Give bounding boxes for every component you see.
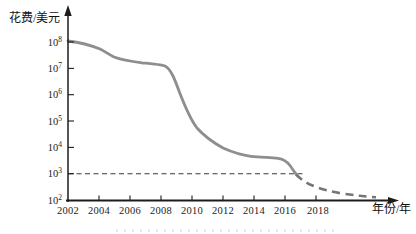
y-axis-title: 花费/美元 [9, 12, 60, 25]
chart-plot-area [0, 0, 416, 234]
x-tick-label-2016: 2016 [269, 204, 301, 217]
x-tick-label-2012: 2012 [207, 204, 239, 217]
projected-cost-curve [296, 175, 376, 198]
y-axis-arrowhead [64, 5, 71, 16]
x-axis-ticks [99, 196, 316, 201]
y-tick-label-10e7: 107 [26, 62, 62, 75]
chart-canvas: 花费/美元 年份/年 108 107 106 105 104 103 102 2… [0, 0, 416, 234]
x-tick-label-2002: 2002 [52, 204, 84, 217]
caption-remnant [116, 229, 334, 232]
x-axis-title: 年份/年 [372, 203, 411, 216]
y-tick-label-10e8: 108 [26, 36, 62, 49]
x-tick-label-2008: 2008 [145, 204, 177, 217]
x-tick-label-2018: 2018 [302, 204, 334, 217]
y-tick-label-10e3: 103 [26, 167, 62, 180]
actual-cost-curve [68, 41, 296, 174]
y-axis-ticks [68, 42, 74, 174]
x-tick-label-2004: 2004 [83, 204, 115, 217]
x-tick-label-2006: 2006 [114, 204, 146, 217]
x-tick-label-2014: 2014 [238, 204, 270, 217]
y-tick-label-10e4: 104 [26, 141, 62, 154]
y-tick-label-10e5: 105 [26, 115, 62, 128]
x-tick-label-2010: 2010 [176, 204, 208, 217]
y-tick-label-10e6: 106 [26, 88, 62, 101]
